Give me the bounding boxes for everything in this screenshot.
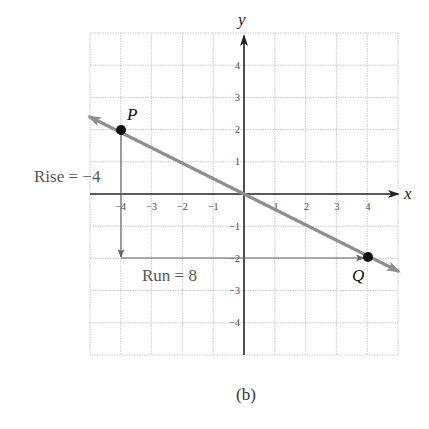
svg-text:3: 3 bbox=[235, 92, 240, 103]
figure-caption: (b) bbox=[236, 385, 256, 404]
y-axis-label: y bbox=[236, 10, 246, 29]
run-label: Run = 8 bbox=[142, 266, 197, 285]
line-pq bbox=[244, 194, 399, 272]
svg-text:−3: −3 bbox=[146, 201, 157, 212]
svg-text:2: 2 bbox=[235, 124, 240, 135]
point-q-label: Q bbox=[352, 266, 364, 285]
point-p bbox=[116, 125, 126, 135]
x-tick-labels: −4 −3 −2 −1 1 2 3 4 bbox=[115, 201, 370, 212]
svg-text:2: 2 bbox=[304, 201, 309, 212]
svg-text:−1: −1 bbox=[229, 221, 240, 232]
rise-label: Rise = −4 bbox=[34, 167, 101, 186]
svg-text:4: 4 bbox=[235, 60, 240, 71]
svg-text:−4: −4 bbox=[229, 317, 240, 328]
line-pq-left bbox=[89, 117, 244, 195]
point-q bbox=[363, 252, 373, 262]
slope-chart: x y −4 −3 −2 −1 1 2 3 4 4 3 2 1 −1 −2 −3… bbox=[0, 0, 429, 429]
svg-text:1: 1 bbox=[235, 156, 240, 167]
point-p-label: P bbox=[126, 105, 137, 124]
svg-text:−2: −2 bbox=[177, 201, 188, 212]
svg-text:−3: −3 bbox=[229, 285, 240, 296]
svg-text:3: 3 bbox=[335, 201, 340, 212]
svg-text:−1: −1 bbox=[208, 201, 219, 212]
x-axis-label: x bbox=[403, 184, 412, 203]
svg-text:4: 4 bbox=[366, 201, 371, 212]
